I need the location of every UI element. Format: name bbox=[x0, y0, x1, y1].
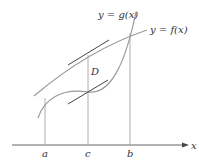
tick-label-b: b bbox=[127, 148, 133, 159]
x-axis-label: x bbox=[191, 140, 197, 151]
curve-g bbox=[38, 12, 136, 118]
x-axis-arrow-icon bbox=[182, 143, 189, 148]
curve-f-label: y = f(x) bbox=[149, 24, 188, 35]
region-label-d: D bbox=[90, 66, 99, 77]
tick-label-a: a bbox=[42, 148, 48, 159]
curve-g-label: y = g(x) bbox=[97, 9, 138, 20]
tangent-line-f bbox=[68, 40, 109, 65]
diagram-canvas: x D y = g(x) y = f(x) a c b bbox=[0, 0, 199, 161]
tick-label-c: c bbox=[85, 148, 91, 159]
